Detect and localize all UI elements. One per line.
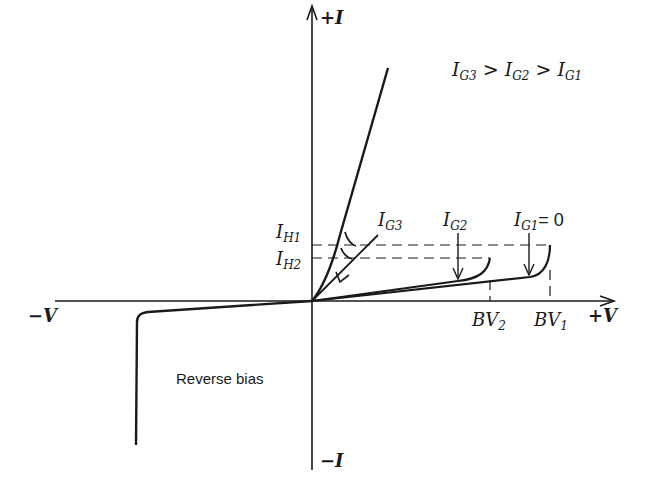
ig1-curve	[312, 245, 550, 301]
reverse-bias-label: Reverse bias	[176, 370, 264, 387]
x-neg-label: −V	[28, 305, 59, 326]
y-pos-label: +I	[320, 7, 344, 28]
bv1-label: BV1	[533, 309, 568, 333]
on-state-curve	[312, 68, 388, 301]
thyristor-iv-diagram: +I −I −V +V IG3 > IG2 > IG1 IH1 IH2 IG3 …	[0, 0, 653, 484]
bv2-label: BV2	[471, 309, 506, 333]
y-neg-label: −I	[320, 450, 344, 471]
ih2-hook	[341, 248, 352, 259]
ih1-label: IH1	[275, 221, 301, 245]
curves	[136, 68, 550, 445]
ig2-label: IG2	[442, 209, 467, 233]
ih2-label: IH2	[275, 248, 301, 272]
ih1-hook	[345, 232, 356, 246]
ig1-label: IG1= 0	[513, 209, 564, 233]
gate-current-relation: IG3 > IG2 > IG1	[451, 58, 582, 83]
x-pos-label: +V	[588, 305, 619, 326]
ig3-arrow-icon	[336, 272, 349, 282]
reference-lines	[312, 245, 550, 301]
ig3-label: IG3	[377, 209, 403, 233]
